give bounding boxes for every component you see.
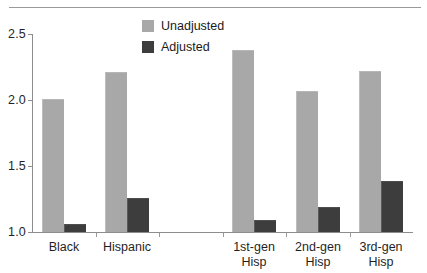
x-axis-group-label-line: 3rd-gen xyxy=(359,240,402,255)
legend-item-unadjusted: Unadjusted xyxy=(142,17,224,35)
bar-adjusted-hispanic xyxy=(127,198,149,232)
y-axis-tick-label: 2.0 xyxy=(8,93,26,107)
legend-label-unadjusted: Unadjusted xyxy=(161,19,224,33)
x-axis-tick xyxy=(96,233,97,237)
legend-item-adjusted: Adjusted xyxy=(142,38,224,56)
bar-adjusted-2nd-gen-hisp xyxy=(318,207,340,232)
bar-unadjusted-3rd-gen-hisp xyxy=(359,71,381,232)
top-divider-rule xyxy=(9,7,421,8)
x-axis-tick xyxy=(286,233,287,237)
bar-unadjusted-hispanic xyxy=(105,72,127,232)
x-axis-group-label: Hispanic xyxy=(103,240,151,255)
legend-label-adjusted: Adjusted xyxy=(161,40,210,54)
bar-unadjusted-2nd-gen-hisp xyxy=(296,91,318,232)
y-axis-tick-label: 2.5 xyxy=(8,27,26,41)
x-axis-group-label: 3rd-genHisp xyxy=(359,240,402,270)
x-axis-group-label: 2nd-genHisp xyxy=(295,240,341,270)
plot-area: 2.52.01.51.0BlackHispanic1st-genHisp2nd-… xyxy=(32,34,413,233)
x-axis-tick xyxy=(159,233,160,237)
x-axis-group-label-line: Hisp xyxy=(359,255,402,270)
y-axis-line xyxy=(32,34,33,233)
bar-adjusted-1st-gen-hisp xyxy=(254,220,276,232)
x-axis-tick xyxy=(223,233,224,237)
y-axis-tick-label: 1.0 xyxy=(8,225,26,239)
x-axis-group-label-line: Black xyxy=(49,240,80,255)
x-axis-group-label-line: Hispanic xyxy=(103,240,151,255)
y-axis-tick xyxy=(28,100,32,101)
y-axis-tick xyxy=(28,166,32,167)
x-axis-group-label-line: Hisp xyxy=(233,255,275,270)
bar-chart-figure: 2.52.01.51.0BlackHispanic1st-genHisp2nd-… xyxy=(0,0,427,273)
y-axis-tick-label: 1.5 xyxy=(8,159,26,173)
x-axis-group-label: Black xyxy=(49,240,80,255)
chart-legend: Unadjusted Adjusted xyxy=(142,17,224,59)
bar-adjusted-3rd-gen-hisp xyxy=(381,181,403,232)
x-axis-group-label: 1st-genHisp xyxy=(233,240,275,270)
x-axis-tick xyxy=(350,233,351,237)
bar-adjusted-black xyxy=(64,224,86,232)
x-axis-group-label-line: 2nd-gen xyxy=(295,240,341,255)
y-axis-tick xyxy=(28,34,32,35)
y-axis-tick xyxy=(28,232,32,233)
bar-unadjusted-1st-gen-hisp xyxy=(232,50,254,232)
bar-unadjusted-black xyxy=(42,99,64,232)
legend-swatch-adjusted-icon xyxy=(142,41,154,53)
x-axis-group-label-line: Hisp xyxy=(295,255,341,270)
x-axis-group-label-line: 1st-gen xyxy=(233,240,275,255)
legend-swatch-unadjusted-icon xyxy=(142,20,154,32)
